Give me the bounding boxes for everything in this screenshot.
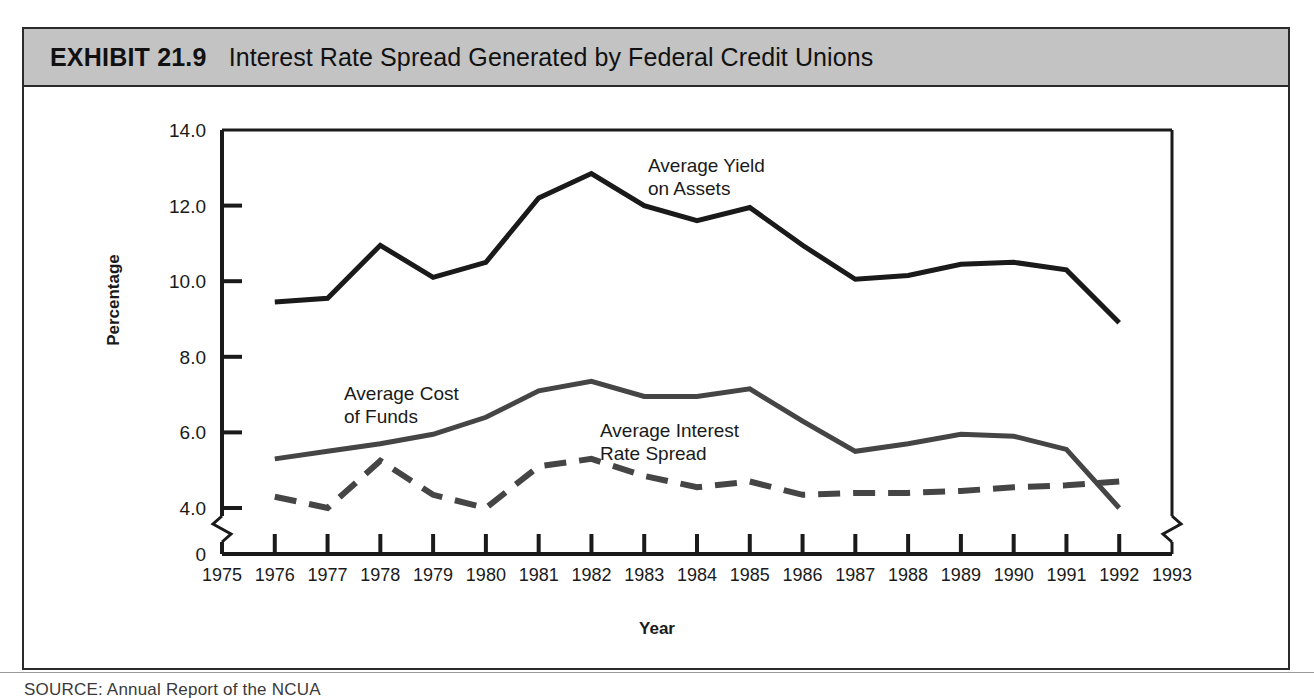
exhibit-header-band: EXHIBIT 21.9 Interest Rate Spread Genera… [24,29,1288,87]
y-axis-title: Percentage [104,254,124,346]
exhibit-title: Interest Rate Spread Generated by Federa… [229,43,874,72]
source-note: SOURCE: Annual Report of the NCUA [24,680,321,698]
exhibit-figure: EXHIBIT 21.9 Interest Rate Spread Genera… [0,0,1314,698]
figure-frame [22,27,1290,670]
footer-divider [0,672,1314,673]
x-axis-title: Year [0,619,1314,639]
exhibit-number: EXHIBIT 21.9 [50,43,207,72]
